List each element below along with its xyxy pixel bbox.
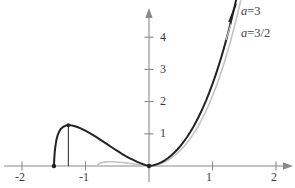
x-tick-label-1: 1 xyxy=(206,171,212,183)
legend-label-a32: a=3/2 xyxy=(241,27,270,40)
x-tick-label-neg1: -1 xyxy=(79,171,89,183)
curve-a-3-2 xyxy=(149,0,241,166)
y-tick-label-3: 3 xyxy=(160,63,166,75)
curve-endpoint-dot xyxy=(147,164,151,168)
legend-value-a32: 3/2 xyxy=(254,26,270,40)
legend-value-a3: 3 xyxy=(254,4,260,18)
y-axis-arrow xyxy=(145,8,152,18)
x-axis-arrow xyxy=(283,162,293,170)
curve-a-3 xyxy=(149,0,238,166)
y-tick-label-2: 2 xyxy=(160,95,166,107)
y-tick-label-1: 1 xyxy=(160,127,166,139)
legend-label-a3: a=3 xyxy=(241,5,261,18)
x-tick-label-neg2: -2 xyxy=(15,171,25,183)
curve-endpoint-dot xyxy=(52,164,56,168)
y-tick-label-4: 4 xyxy=(160,31,166,43)
figure-canvas: -2 -1 1 2 1 2 3 4 a=3 a=3/2 xyxy=(0,0,295,188)
legend-leader-a32 xyxy=(226,24,231,40)
x-tick-label-2: 2 xyxy=(271,171,277,183)
maximum-point-dot xyxy=(66,123,70,127)
